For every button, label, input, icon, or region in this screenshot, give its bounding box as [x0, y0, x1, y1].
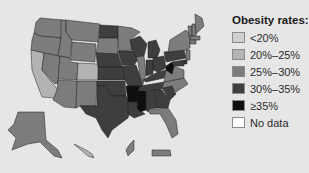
state-in [146, 60, 153, 76]
state-az [53, 80, 77, 108]
state-ms [137, 91, 146, 112]
legend-swatch [232, 32, 245, 43]
legend-item: ≥35% [232, 97, 309, 114]
state-oh [153, 56, 166, 72]
legend-swatch [232, 49, 245, 60]
state-ks [98, 67, 125, 80]
state-md [172, 60, 184, 66]
legend-item: No data [232, 114, 309, 131]
state-mt [66, 20, 100, 42]
legend-item: 25%–30% [232, 63, 309, 80]
us-obesity-map [0, 0, 215, 173]
state-hi [74, 144, 94, 158]
legend-swatch [232, 66, 245, 77]
legend-label: 20%–25% [250, 49, 300, 61]
legend-title: Obesity rates: [232, 14, 309, 26]
state-nd [99, 25, 118, 38]
state-vt [188, 26, 192, 36]
legend-label: ≥35% [250, 100, 278, 112]
legend-item: <20% [232, 29, 309, 46]
legend-swatch [232, 83, 245, 94]
legend-swatch [232, 100, 245, 111]
state-ny [168, 30, 190, 52]
state-de [184, 60, 187, 64]
state-sd [96, 38, 118, 54]
legend-label: 30%–35% [250, 83, 300, 95]
legend-label: No data [250, 117, 289, 129]
legend-swatch [232, 117, 245, 128]
state-pr [152, 150, 171, 156]
legend-label: <20% [250, 32, 278, 44]
legend-item: 30%–35% [232, 80, 309, 97]
state-co [77, 63, 99, 80]
legend: Obesity rates: <20%20%–25%25%–30%30%–35%… [232, 14, 309, 131]
state-mi [148, 40, 160, 58]
state-gu [126, 140, 134, 156]
state-ne [96, 53, 122, 67]
state-ma [190, 36, 200, 40]
legend-item: 20%–25% [232, 46, 309, 63]
state-fl [148, 108, 178, 138]
state-nj [186, 50, 190, 60]
legend-label: 25%–30% [250, 66, 300, 78]
state-me [195, 14, 204, 34]
state-nm [76, 81, 97, 108]
state-wy [71, 42, 96, 62]
state-ak [8, 112, 62, 158]
state-ct [190, 40, 196, 44]
